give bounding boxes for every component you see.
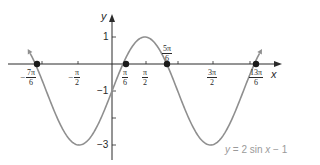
- sine-curve: [30, 37, 259, 145]
- equation-label: y = 2 sin x − 1: [225, 144, 287, 155]
- denominator: 6: [29, 78, 33, 87]
- point-13pi-6: [253, 61, 259, 67]
- numerator: π: [74, 69, 80, 78]
- minus-sign: −: [68, 73, 73, 81]
- numerator: π: [142, 69, 148, 78]
- denominator: 6: [254, 78, 258, 87]
- denominator: 2: [75, 78, 79, 87]
- denominator: 6: [165, 54, 169, 63]
- eq-mid: = 2 sin: [230, 144, 265, 155]
- numerator: 13π: [249, 69, 263, 78]
- xtick-label-neg-pi-2: − π 2: [74, 69, 80, 87]
- denominator: 6: [123, 78, 127, 87]
- point-neg-7pi-6: [34, 61, 40, 67]
- denominator: 2: [210, 78, 214, 87]
- numerator: 7π: [26, 69, 36, 78]
- xtick-label-pi-6: π 6: [122, 69, 128, 87]
- eq-end: − 1: [270, 144, 287, 155]
- y-label-neg1: −1: [97, 85, 108, 96]
- xtick-label-3pi-2: 3π 2: [207, 69, 217, 87]
- numerator: 3π: [207, 69, 217, 78]
- y-axis-label: y: [101, 10, 107, 22]
- minus-sign: −: [20, 73, 25, 81]
- y-label-1: 1: [103, 31, 109, 42]
- y-axis-arrow-icon: [109, 14, 115, 22]
- xtick-label-neg-7pi-6: − 7π 6: [26, 69, 36, 87]
- xtick-label-pi-2: π 2: [142, 69, 148, 87]
- x-axis-arrow-icon: [274, 61, 282, 67]
- denominator: 2: [143, 78, 147, 87]
- xtick-label-5pi-6: 5π 6: [162, 45, 172, 63]
- xtick-label-13pi-6: 13π 6: [249, 69, 263, 87]
- numerator: 5π: [162, 45, 172, 54]
- y-label-neg3: −3: [97, 139, 108, 150]
- point-pi-6: [123, 61, 129, 67]
- x-axis-label: x: [271, 68, 277, 80]
- numerator: π: [122, 69, 128, 78]
